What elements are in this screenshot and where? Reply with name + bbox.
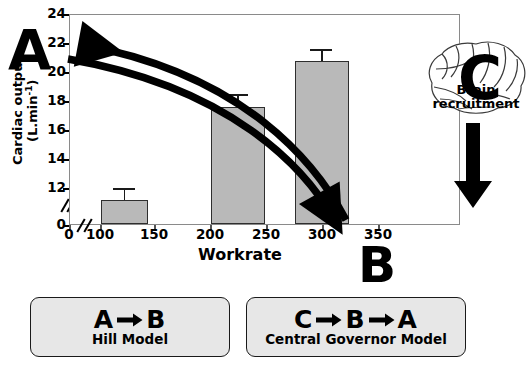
hill-model-box: A B Hill Model <box>30 297 230 357</box>
right-arrow-icon <box>316 313 342 327</box>
down-arrow-icon <box>453 123 493 209</box>
x-axis-break-mark <box>78 218 96 238</box>
x-axis-title: Workrate <box>120 245 360 264</box>
x-tick-label-300: 300 <box>308 228 336 242</box>
x-tick-label-200: 200 <box>196 228 224 242</box>
y-tick-label-12: 12 <box>0 181 66 195</box>
x-tick-label-0: 0 <box>64 228 73 242</box>
y-tick-label-16: 16 <box>0 123 66 137</box>
x-tick-label-150: 150 <box>140 228 168 242</box>
right-arrow-icon <box>117 313 143 327</box>
y-tick-label-0: 0 <box>0 218 66 232</box>
sequence-node-A: A <box>94 307 114 332</box>
central-governor-model-label: Central Governor Model <box>265 333 447 347</box>
label-A: A <box>8 22 51 78</box>
sequence-node-A: A <box>398 307 418 332</box>
sequence-node-B: B <box>345 307 365 332</box>
y-tick-label-18: 18 <box>0 94 66 108</box>
x-tick-label-250: 250 <box>252 228 280 242</box>
hill-model-label: Hill Model <box>92 333 168 347</box>
plot-area: C Brain recruitment <box>69 14 460 225</box>
central-governor-model-box: C B A Central Governor Model <box>246 297 466 357</box>
brain-caption-line2: recruitment <box>432 96 519 111</box>
label-B: B <box>358 240 396 290</box>
hill-model-sequence: A B <box>94 307 166 332</box>
right-arrow-icon <box>369 313 395 327</box>
central-governor-sequence: C B A <box>294 307 418 332</box>
curved-arrows-group <box>70 15 461 226</box>
sequence-node-C: C <box>294 307 313 332</box>
y-tick-label-14: 14 <box>0 152 66 166</box>
sequence-node-B: B <box>146 307 166 332</box>
brain-recruitment-caption: Brain recruitment <box>412 83 530 110</box>
